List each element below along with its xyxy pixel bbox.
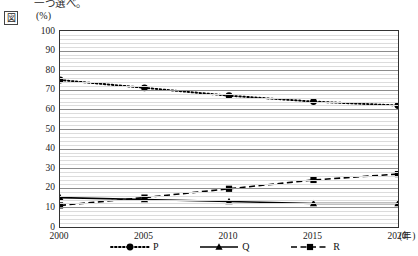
gridline-minor [60, 196, 398, 197]
legend-sample-circle-icon [110, 242, 150, 252]
y-axis-tick-label: 20 [25, 183, 55, 193]
gridline-major [60, 109, 398, 110]
legend-label: P [153, 242, 159, 252]
y-axis-tick-label: 60 [25, 105, 55, 115]
y-axis-labels: 0102030405060708090100 [22, 30, 55, 228]
gridline-minor [60, 74, 398, 75]
gridline-minor [60, 66, 398, 67]
gridline-minor [60, 160, 398, 161]
gridline-minor [60, 43, 398, 44]
gridline-minor [60, 35, 398, 36]
gridline-minor [60, 164, 398, 165]
y-axis-tick-label: 50 [25, 125, 55, 135]
gridline-major [60, 51, 398, 52]
gridline-minor [60, 133, 398, 134]
gridline-major [60, 90, 398, 91]
gridline-minor [60, 172, 398, 173]
gridline-minor [60, 58, 398, 59]
legend-item-r: R [290, 242, 340, 252]
legend-item-q: Q [199, 242, 249, 252]
gridline-minor [60, 141, 398, 142]
gridline-minor [60, 86, 398, 87]
gridline-minor [60, 62, 398, 63]
x-axis-tick-label: 2000 [39, 231, 79, 242]
gridline-minor [60, 176, 398, 177]
y-axis-tick-label: 100 [25, 27, 55, 37]
gridline-minor [60, 211, 398, 212]
y-axis-tick-label: 90 [25, 46, 55, 56]
gridline-minor [60, 55, 398, 56]
gridline-minor [60, 215, 398, 216]
gridline-minor [60, 200, 398, 201]
gridline-major [60, 188, 398, 189]
gridline-minor [60, 47, 398, 48]
gridline-minor [60, 219, 398, 220]
gridline-minor [60, 223, 398, 224]
gridline-minor [60, 121, 398, 122]
instruction-text: 一つ選べ。 [34, 0, 87, 10]
legend-item-p: P [110, 242, 159, 252]
gridline-minor [60, 192, 398, 193]
chart-plot-area [59, 30, 399, 228]
y-axis-unit-label: (%) [36, 10, 51, 21]
gridline-major [60, 149, 398, 150]
gridline-minor [60, 137, 398, 138]
gridline-minor [60, 82, 398, 83]
gridline-minor [60, 203, 398, 204]
gridline-major [60, 129, 398, 130]
y-axis-tick-label: 30 [25, 164, 55, 174]
y-axis-tick-label: 40 [25, 144, 55, 154]
gridline-minor [60, 180, 398, 181]
legend-label: R [333, 242, 340, 252]
gridline-minor [60, 117, 398, 118]
legend-sample-square-icon [290, 242, 330, 252]
gridline-major [60, 207, 398, 208]
gridline-minor [60, 78, 398, 79]
gridline-minor [60, 105, 398, 106]
gridline-minor [60, 39, 398, 40]
y-axis-tick-label: 80 [25, 66, 55, 76]
gridline-minor [60, 184, 398, 185]
gridline-minor [60, 125, 398, 126]
gridline-major [60, 168, 398, 169]
legend-sample-triangle-icon [199, 242, 239, 252]
gridline-minor [60, 94, 398, 95]
gridline-minor [60, 156, 398, 157]
gridline-minor [60, 102, 398, 103]
gridline-minor [60, 153, 398, 154]
x-axis-unit-label: (年) [399, 231, 415, 242]
y-axis-tick-label: 10 [25, 203, 55, 213]
chart-legend: PQR [110, 240, 340, 254]
figure-label: 図 [4, 11, 18, 25]
legend-label: Q [242, 242, 249, 252]
gridline-minor [60, 113, 398, 114]
gridline-minor [60, 98, 398, 99]
gridline-major [60, 70, 398, 71]
y-axis-tick-label: 70 [25, 85, 55, 95]
gridline-minor [60, 145, 398, 146]
